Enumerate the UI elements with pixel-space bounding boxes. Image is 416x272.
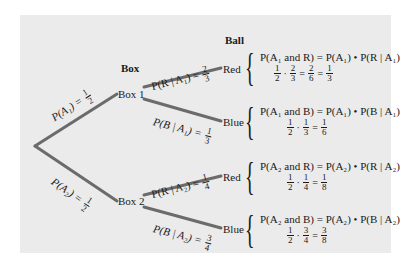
ball-header: Ball — [225, 34, 244, 46]
outcome-4-formula: P(A₂ and B) = P(A₂) • P(B | A₂) — [260, 213, 400, 225]
outcome-2-calc: 12 · 13 = 16 — [286, 118, 328, 137]
node-box1: Box 1 — [118, 88, 145, 100]
node-blue1: Blue — [223, 116, 244, 128]
box-header: Box — [121, 62, 139, 74]
brace-icon: { — [245, 157, 255, 197]
outcome-1-formula: P(A₁ and R) = P(A₁) • P(R | A₁) — [260, 51, 400, 63]
node-blue2: Blue — [223, 223, 244, 235]
outcome-2-formula: P(A₁ and B) = P(A₁) • P(B | A₁) — [260, 105, 400, 117]
outcome-3-calc: 12 · 14 = 18 — [286, 173, 328, 192]
node-box2: Box 2 — [118, 195, 145, 207]
brace-icon: { — [245, 48, 255, 88]
node-red2: Red — [223, 171, 241, 183]
node-red1: Red — [223, 63, 241, 75]
brace-icon: { — [245, 210, 255, 250]
outcome-1-calc: 12 · 23 = 26 = 13 — [273, 64, 334, 83]
outcome-4-calc: 12 · 34 = 38 — [286, 226, 328, 245]
outcome-3-formula: P(A₂ and R) = P(A₂) • P(R | A₂) — [260, 160, 400, 172]
brace-icon: { — [245, 102, 255, 142]
